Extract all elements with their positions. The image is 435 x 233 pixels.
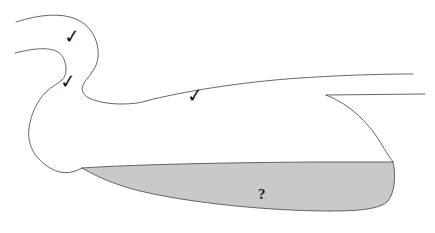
checkmark-back: ✓ <box>186 85 204 106</box>
shaded-belly-region <box>82 162 395 211</box>
question-mark-belly: ? <box>258 187 266 202</box>
tail-line <box>326 94 425 95</box>
illustration-canvas: ✓ ✓ ✓ ? <box>0 0 435 233</box>
head-crest-line <box>16 15 98 72</box>
checkmark-lower-head: ✓ <box>59 71 77 92</box>
checkmark-upper-head: ✓ <box>63 26 81 47</box>
front-profile-line <box>29 80 82 173</box>
rear-body-curve <box>326 95 393 162</box>
neck-back-line <box>82 72 146 104</box>
